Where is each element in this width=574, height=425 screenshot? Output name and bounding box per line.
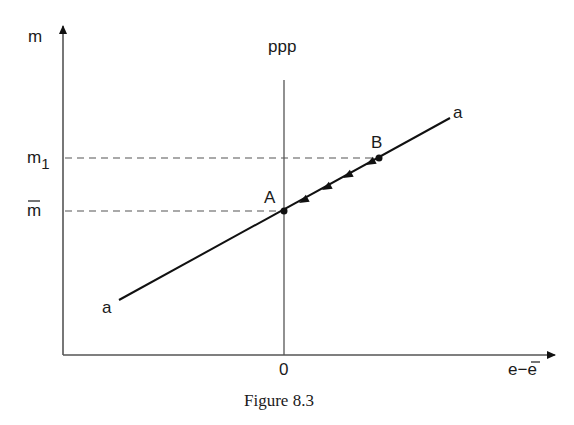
svg-text:e−e: e−e [508,360,537,379]
y-axis-label: m [28,27,42,46]
x-axis-label: e−e [508,360,540,379]
m1-tick-label: m1 [27,148,50,172]
origin-label: 0 [279,360,288,379]
point-b-dot [376,155,383,162]
ppp-label: ppp [268,37,296,56]
mbar-tick-label: m [27,201,41,220]
point-a-dot [281,208,288,215]
line-label-end: a [453,103,463,122]
svg-text:m: m [27,201,41,220]
point-b-label: B [371,133,382,152]
line-label-start: a [102,298,112,317]
point-a-label: A [264,188,276,207]
diagram-canvas: m m1 m ppp A B a a 0 e−e Figure 8.3 [0,0,574,425]
figure-caption: Figure 8.3 [244,391,314,410]
